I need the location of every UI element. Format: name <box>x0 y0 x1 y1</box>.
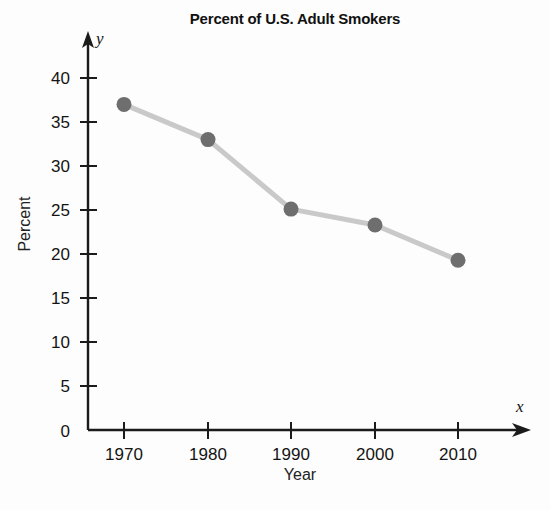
x-tick-label: 1990 <box>272 445 310 464</box>
series-line <box>124 104 458 260</box>
y-tick-label: 30 <box>51 157 70 176</box>
y-tick-label: 10 <box>51 333 70 352</box>
data-point <box>368 218 383 233</box>
y-tick-label: 20 <box>51 245 70 264</box>
x-axis: x <box>88 397 531 437</box>
y-tick-label: 40 <box>51 69 70 88</box>
x-tick-label: 2010 <box>439 445 477 464</box>
data-point <box>451 253 466 268</box>
data-point <box>201 132 216 147</box>
chart-figure: Percent of U.S. Adult Smokers y x 4 <box>0 0 550 510</box>
y-tick-label: 5 <box>61 377 70 396</box>
x-tick-label: 1980 <box>189 445 227 464</box>
plot-area: y x 40 35 30 25 20 15 10 5 <box>0 0 550 510</box>
y-axis-title: Percent <box>16 179 34 269</box>
x-tick-label: 1970 <box>105 445 143 464</box>
x-axis-title: Year <box>240 466 360 484</box>
data-point <box>117 97 132 112</box>
y-tick-label-zero: 0 <box>61 422 70 441</box>
y-tick-label: 25 <box>51 201 70 220</box>
y-axis: y <box>82 29 104 430</box>
x-tick-labels: 1970 1980 1990 2000 2010 <box>105 445 477 464</box>
x-tick-label: 2000 <box>356 445 394 464</box>
x-axis-variable-label: x <box>515 397 524 416</box>
y-tick-label: 15 <box>51 289 70 308</box>
data-point <box>284 202 299 217</box>
y-axis-variable-label: y <box>94 29 104 48</box>
y-tick-label: 35 <box>51 113 70 132</box>
y-tick-labels: 40 35 30 25 20 15 10 5 0 <box>51 69 70 441</box>
